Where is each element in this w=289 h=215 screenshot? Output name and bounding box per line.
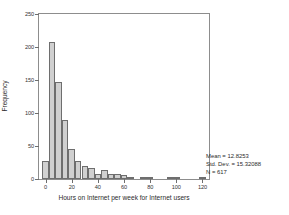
x-axis-tick [98,179,99,183]
stat-std-dev: Std. Dev. = 15.32088 [206,160,261,168]
x-axis-tick-label: 100 [172,184,181,190]
y-axis-tick [35,14,39,15]
histogram-bar [127,177,134,179]
x-axis-tick [176,179,177,183]
x-axis-tick-label: 60 [121,184,127,190]
histogram-bar [75,161,82,179]
stat-n: N = 617 [206,168,261,176]
y-axis-tick-label: 200 [25,44,34,50]
y-axis-title: Frequency [1,80,8,111]
y-axis-tick-label: 0 [31,176,34,182]
x-axis-tick [150,179,151,183]
histogram-figure: 050100150200250 020406080100120 Frequenc… [0,0,289,215]
plot-area: 050100150200250 020406080100120 [38,13,210,180]
histogram-bar [68,149,75,179]
histogram-bar [88,168,95,179]
y-axis-tick-label: 150 [25,77,34,83]
x-axis-title: Hours on Internet per week for Internet … [38,194,210,201]
y-axis-tick [35,47,39,48]
stat-mean: Mean = 12.8253 [206,152,261,160]
histogram-bar [108,174,115,179]
x-axis-tick-label: 120 [198,184,207,190]
y-axis-tick-label: 50 [28,143,34,149]
x-axis-tick-label: 0 [44,184,47,190]
y-axis-tick [35,80,39,81]
statistics-annotation: Mean = 12.8253 Std. Dev. = 15.32088 N = … [206,152,261,176]
x-axis-tick [202,179,203,183]
y-axis-tick [35,146,39,147]
x-axis-tick [46,179,47,183]
histogram-bar [49,42,56,179]
y-axis-tick [35,113,39,114]
x-axis-tick-label: 40 [95,184,101,190]
y-axis-tick-label: 100 [25,110,34,116]
x-axis-tick [124,179,125,183]
x-axis-tick-label: 20 [69,184,75,190]
y-axis-tick [35,179,39,180]
bars-layer [39,14,209,179]
x-axis-tick [72,179,73,183]
y-axis-tick-label: 250 [25,11,34,17]
x-axis-tick-label: 80 [147,184,153,190]
